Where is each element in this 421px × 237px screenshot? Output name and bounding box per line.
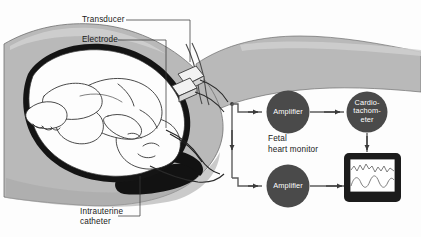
label-intrauterine-catheter-line1: Intrauterine — [80, 207, 123, 218]
amplifier-top-node[interactable] — [267, 91, 310, 134]
path-to-amp-bottom — [232, 178, 262, 186]
label-fetal-heart-monitor-line2: heart monitor — [268, 145, 318, 156]
amplifier-bottom-node[interactable] — [267, 165, 310, 208]
label-electrode: Electrode — [82, 35, 118, 46]
monitor-screen — [350, 159, 395, 192]
monitor-display[interactable] — [344, 153, 401, 202]
cardiotachometer-node[interactable] — [347, 92, 388, 133]
label-fetal-heart-monitor-line1: Fetal — [268, 134, 287, 145]
path-to-amp-top — [232, 104, 262, 112]
label-transducer: Transducer — [82, 15, 125, 26]
label-intrauterine-catheter-line2: catheter — [80, 217, 111, 228]
anatomy-illustration — [0, 0, 421, 237]
figure-canvas: Transducer Electrode Intrauterine cathet… — [0, 0, 421, 237]
